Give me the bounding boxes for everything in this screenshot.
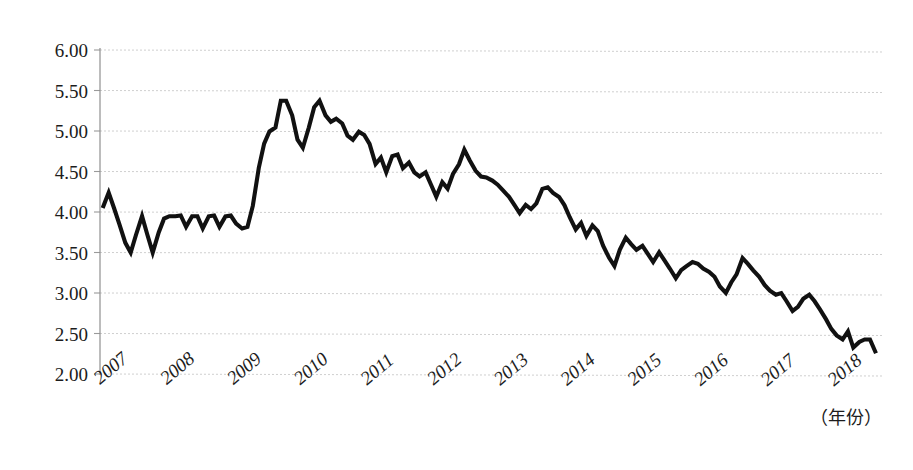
y-tick-label: 2.50	[55, 324, 88, 345]
x-tick-label: 2007	[89, 347, 133, 388]
x-tick-label: 2016	[690, 349, 733, 390]
gridlines-group	[100, 50, 884, 376]
x-tick-label: 2011	[356, 349, 398, 389]
gridline-horizontal	[100, 91, 884, 93]
x-tick-label: 2008	[156, 347, 199, 388]
x-tick-label: 2017	[756, 348, 800, 389]
tickmarks-group	[94, 50, 100, 374]
y-tick-label: 6.00	[55, 40, 88, 61]
data-series-line	[103, 101, 876, 354]
y-tick-labels-group: 2.002.503.003.504.004.505.005.506.00	[55, 40, 88, 385]
x-tick-label: 2013	[489, 349, 532, 390]
x-tick-label: 2015	[623, 349, 666, 390]
x-tick-label: 2018	[823, 349, 866, 390]
x-axis-title: （年份）	[810, 408, 882, 428]
gridline-horizontal	[100, 212, 884, 214]
y-tick-label: 3.00	[55, 283, 88, 304]
line-chart: 2.002.503.003.504.004.505.005.506.00 200…	[0, 0, 913, 470]
gridline-horizontal	[100, 334, 884, 336]
y-tick-label: 5.50	[55, 81, 88, 102]
y-tick-label: 4.00	[55, 202, 88, 223]
gridline-horizontal	[100, 293, 884, 295]
x-tick-labels-group: 2007200820092010201120122013201420152016…	[89, 347, 866, 390]
gridline-horizontal	[100, 131, 884, 133]
x-tick-label: 2014	[556, 348, 599, 389]
x-tick-label: 2012	[423, 348, 466, 389]
y-tick-label: 5.00	[55, 121, 88, 142]
y-tick-label: 2.00	[55, 364, 88, 385]
gridline-horizontal	[100, 253, 884, 255]
x-tick-label: 2009	[223, 348, 266, 389]
gridline-horizontal	[100, 50, 884, 52]
gridline-horizontal	[100, 172, 884, 174]
x-tick-label: 2010	[289, 348, 332, 389]
y-tick-label: 3.50	[55, 243, 88, 264]
y-tick-label: 4.50	[55, 162, 88, 183]
chart-container: 2.002.503.003.504.004.505.005.506.00 200…	[0, 0, 913, 470]
data-line-group	[103, 101, 876, 354]
